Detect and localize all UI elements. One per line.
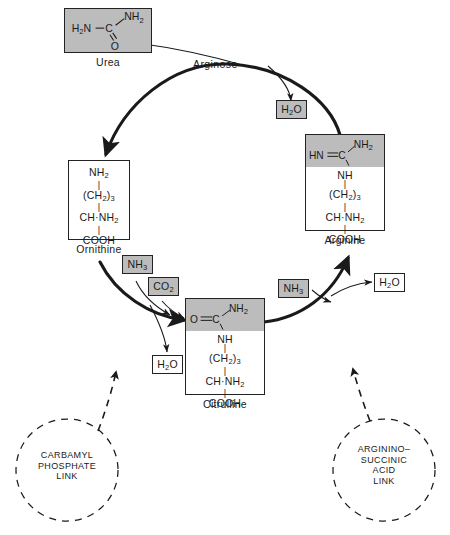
metabolite-label-urea: Urea [64, 56, 152, 68]
ornithine-structure: NH2 | (CH2)3 | CH·NH2 | COOH [69, 166, 129, 246]
bond-3: | [344, 226, 346, 233]
reagent-label-ammonia-left: NH3 [128, 258, 148, 272]
reagent-label-carbon-dioxide: CO2 [153, 280, 174, 294]
urea-carbonyl-oxygen: O [111, 40, 119, 52]
metabolite-label-ornithine: Ornithine [58, 243, 140, 255]
metabolite-box-urea: H2N C NH2 O [64, 8, 152, 53]
metabolite-box-ornithine: NH2 | (CH2)3 | CH·NH2 | COOH [68, 160, 130, 240]
arrow-to-water-right [331, 282, 372, 296]
reagent-label-water-right: H2O [379, 276, 400, 290]
enzyme-label-arginase: Arginose [193, 58, 238, 70]
reagent-box-carbon-dioxide: CO2 [148, 277, 179, 296]
bond-1: | [344, 181, 346, 188]
bond-2: | [344, 204, 346, 211]
metabolite-box-arginine: HN C NH2 NH | (CH2)3 | CH·NH2 | COOH [305, 134, 385, 231]
urea-amine-group: NH2 [124, 10, 143, 24]
reagent-box-water-left: H2O [152, 355, 183, 374]
metabolite-label-arginine: Arginine [305, 234, 385, 246]
citrulline-band-left: O [190, 314, 198, 325]
arginine-band-structure: HN C NH2 [306, 135, 384, 167]
carbamyl-phosphate-link-circle [16, 372, 118, 521]
urea-cycle-diagram: H2N C NH2 O Urea NH2 | (CH2)3 | CH·NH2 |… [0, 0, 450, 535]
bond-1: | [98, 182, 100, 189]
arginine-guanidino-band: HN C NH2 [306, 135, 384, 167]
bond-2: | [98, 204, 100, 211]
urea-structure: H2N C NH2 O [64, 9, 152, 52]
citrulline-band-carbon: C [212, 314, 219, 325]
reagent-box-ammonia-left: NH3 [122, 255, 153, 274]
argininosuccinic-acid-link-label: ARGININO– SUCCINIC ACID LINK [334, 444, 434, 486]
reagent-box-water-right: H2O [374, 273, 405, 292]
metabolite-label-citrulline: Citrulline [185, 398, 265, 410]
reagent-box-ammonia-right: NH3 [278, 279, 309, 298]
arginine-band-right: NH2 [354, 139, 373, 152]
reagent-label-water-left: H2O [157, 358, 178, 372]
arginine-band-carbon: C [338, 150, 345, 161]
reagent-label-water-top: H2O [281, 103, 302, 117]
citrulline-band-right: NH2 [229, 303, 248, 316]
bond-1: | [224, 345, 226, 352]
bond-3: | [224, 390, 226, 397]
citrulline-band-structure: O C NH2 [186, 299, 264, 331]
carbamyl-phosphate-link-label: CARBAMYL PHOSPHATE LINK [17, 450, 117, 482]
metabolite-box-citrulline: O C NH2 NH | (CH2)3 | CH·NH2 | COOH [185, 298, 265, 395]
urea-center-atom: C [105, 22, 113, 34]
urea-left-group: H2N [72, 22, 91, 36]
bond-2: | [224, 368, 226, 375]
bond-3: | [98, 227, 100, 234]
reagent-box-water-top: H2O [276, 100, 307, 119]
reagent-label-ammonia-right: NH3 [284, 282, 304, 296]
arginine-band-left: HN [309, 150, 324, 161]
citrulline-carbamyl-band: O C NH2 [186, 299, 264, 331]
